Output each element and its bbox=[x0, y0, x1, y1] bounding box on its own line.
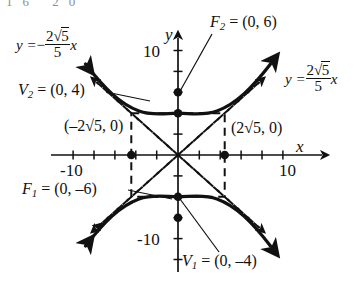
vertex-upper-name: V bbox=[18, 81, 28, 98]
asymptote-left-fraction: 2√55 bbox=[45, 29, 70, 60]
asymptote-right-lhs: y = bbox=[285, 71, 306, 87]
x-tick-label-positive-ten: 10 bbox=[279, 161, 296, 181]
focus-lower-value: = (0, –6) bbox=[41, 180, 97, 197]
focus-upper-name: F bbox=[210, 13, 220, 30]
axis-label-x: x bbox=[296, 138, 304, 155]
y-tick-label-negative-ten: -10 bbox=[137, 230, 160, 250]
vertex-lower-label: V1 = (0, –4) bbox=[182, 253, 257, 271]
asymptote-left-var: x bbox=[70, 37, 77, 53]
asymptote-right-radicand: 5 bbox=[321, 61, 330, 78]
focus-lower-label: F1 = (0, –6) bbox=[22, 181, 97, 199]
radical-sign: √5 bbox=[54, 29, 70, 44]
point-covertex-right bbox=[220, 151, 229, 160]
covertex-left-label: (–2√5, 0) bbox=[64, 118, 123, 134]
vertex-upper-value: = (0, 4) bbox=[37, 81, 85, 98]
asymptote-right-var: x bbox=[331, 71, 338, 87]
focus-lower-subscript: 1 bbox=[32, 187, 37, 199]
focus-upper-label: F2 = (0, 6) bbox=[210, 14, 277, 32]
focus-upper-value: = (0, 6) bbox=[229, 13, 277, 30]
leader-vertex-lower bbox=[180, 199, 219, 252]
asymptote-left-lhs: y = bbox=[16, 37, 37, 53]
axis-label-y: y bbox=[165, 26, 173, 43]
asymptote-left-numer-coef: 2 bbox=[46, 28, 54, 44]
hyperbola-figure: 16 20 bbox=[0, 0, 355, 283]
asymptote-left-sign: − bbox=[37, 37, 45, 53]
vertex-upper-subscript: 2 bbox=[28, 88, 33, 100]
vertex-lower-subscript: 1 bbox=[192, 259, 197, 271]
asymptote-left-radicand: 5 bbox=[61, 27, 70, 44]
asymptote-right-denom: 5 bbox=[306, 79, 331, 94]
covertex-right-label: (2√5, 0) bbox=[231, 120, 282, 136]
focus-upper-subscript: 2 bbox=[220, 20, 225, 32]
asymptote-left-denom: 5 bbox=[45, 45, 70, 60]
vertex-upper-label: V2 = (0, 4) bbox=[18, 82, 85, 100]
vertex-lower-name: V bbox=[182, 252, 192, 269]
asymptote-left-label: y =−2√55x bbox=[16, 29, 77, 60]
radical-sign: √5 bbox=[314, 63, 330, 78]
asymptote-right-label: y =2√55x bbox=[285, 63, 337, 94]
vertex-lower-value: = (0, –4) bbox=[201, 252, 257, 269]
asymptote-right-numer-coef: 2 bbox=[307, 62, 315, 78]
x-tick-label-negative-ten: -10 bbox=[60, 161, 83, 181]
focus-lower-name: F bbox=[22, 180, 32, 197]
axis-x bbox=[51, 151, 322, 160]
point-vertex-upper bbox=[174, 109, 183, 118]
y-tick-label-positive-ten: 10 bbox=[143, 42, 160, 62]
asymptote-right-fraction: 2√55 bbox=[306, 63, 331, 94]
leader-lines bbox=[106, 34, 219, 252]
leader-focus-upper bbox=[179, 34, 212, 93]
point-focus-lower bbox=[174, 213, 183, 222]
point-covertex-left bbox=[127, 151, 136, 160]
